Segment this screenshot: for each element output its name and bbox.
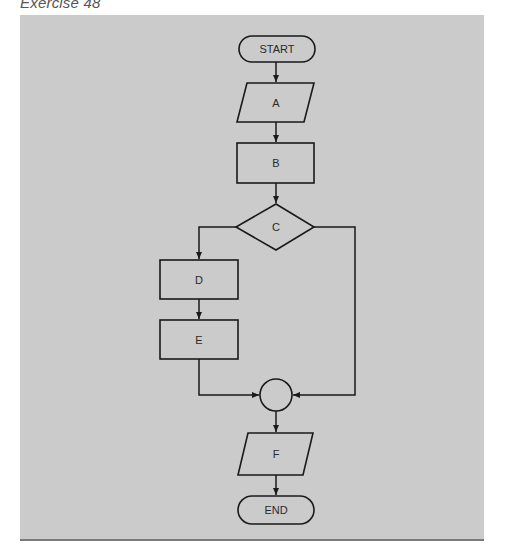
d-label: D bbox=[195, 274, 203, 286]
flowchart: START A B C D E bbox=[0, 0, 507, 556]
process-e: E bbox=[160, 320, 238, 359]
b-label: B bbox=[272, 157, 279, 169]
decision-c: C bbox=[236, 204, 314, 250]
input-output-f: F bbox=[238, 433, 313, 475]
start-terminal: START bbox=[239, 36, 315, 62]
input-output-a: A bbox=[237, 83, 314, 122]
end-label: END bbox=[264, 504, 287, 516]
end-terminal: END bbox=[238, 496, 314, 524]
edge-c-to-d bbox=[199, 227, 236, 259]
start-label: START bbox=[259, 43, 294, 55]
f-label: F bbox=[273, 448, 280, 460]
process-d: D bbox=[160, 260, 238, 299]
c-label: C bbox=[272, 221, 280, 233]
edge-e-to-join bbox=[199, 359, 259, 395]
process-b: B bbox=[237, 143, 314, 183]
e-label: E bbox=[195, 334, 202, 346]
connector-join bbox=[260, 379, 292, 411]
edge-c-to-join bbox=[293, 227, 355, 395]
a-label: A bbox=[272, 97, 280, 109]
